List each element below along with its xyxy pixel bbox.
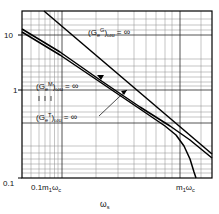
svg-text:ωs: ωs [100,199,110,210]
chart-svg: 10 1 0.1 0.1m1ωc m1ωc ωs (GeG)ωu = ∞ (Ge… [0,0,219,214]
svg-text:(GeT)ωu = ∞: (GeT)ωu = ∞ [36,112,77,123]
svg-text:(GeG)ωu = ∞: (GeG)ωu = ∞ [88,27,130,38]
x-axis-title: ωs [100,199,110,210]
vertical-dots-annotation [39,96,51,101]
curve-g-label: (GeG)ωu = ∞ [88,27,130,38]
log-log-chart-figure: 10 1 0.1 0.1m1ωc m1ωc ωs (GeG)ωu = ∞ (Ge… [0,0,219,214]
y-tick-label-1: 1 [13,86,18,95]
svg-text:(GeM)ωu = ∞: (GeM)ωu = ∞ [36,81,78,92]
curve-m-label: (GeM)ωu = ∞ [36,81,78,92]
svg-text:0.1m1ωc: 0.1m1ωc [31,183,61,193]
grid-minor-horizontal [22,19,212,173]
y-tick-label-0-1: 0.1 [3,179,15,188]
x-tick-label-right: m1ωc [176,183,195,193]
x-tick-label-left: 0.1m1ωc [31,183,61,193]
curve-t-label: (GeT)ωu = ∞ [36,112,77,123]
curve-ge-t [22,32,196,178]
svg-text:m1ωc: m1ωc [176,183,195,193]
y-tick-label-10: 10 [4,31,13,40]
